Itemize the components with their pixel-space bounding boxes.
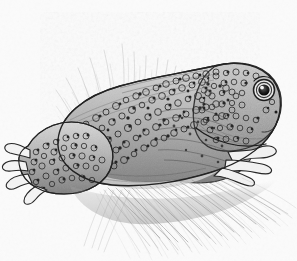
figure-container: partially cropped caption text	[0, 0, 297, 261]
illustration-svg	[0, 0, 297, 261]
paper-grain	[0, 0, 297, 261]
toad-illustration	[0, 0, 297, 261]
